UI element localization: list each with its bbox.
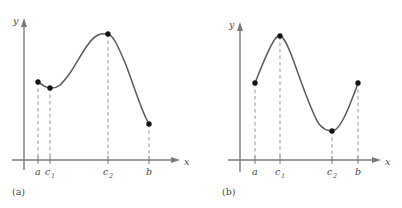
- tick-label-b-3: b: [355, 166, 361, 177]
- tick-sub-b-2: 2: [332, 172, 337, 180]
- curve-a: [38, 34, 149, 124]
- point-b-c1: [277, 33, 282, 38]
- marked-points-a: [35, 31, 151, 126]
- panel-caption-b: (b): [222, 186, 236, 197]
- y-axis-label-b: y: [228, 19, 235, 30]
- panel-b: y x: [201, 0, 402, 208]
- y-axis-arrow-a: [21, 18, 27, 27]
- point-a-c2: [105, 31, 110, 36]
- x-axis-arrow-b: [372, 157, 381, 163]
- tick-label-a-3: b: [146, 166, 152, 177]
- panel-a: y x: [0, 0, 201, 208]
- point-a-b: [146, 121, 151, 126]
- point-b-c2: [329, 128, 334, 133]
- panel-b-plot: y x: [201, 0, 402, 208]
- panel-a-plot: y x: [0, 0, 201, 208]
- point-a-c1: [47, 85, 52, 90]
- panel-caption-a: (a): [12, 186, 25, 197]
- tick-sub-a-2: 2: [108, 172, 113, 180]
- figure-container: y x: [0, 0, 402, 208]
- y-axis-arrow-b: [237, 22, 243, 31]
- tick-sub-b-1: 1: [281, 172, 285, 180]
- drop-lines-a: [38, 34, 149, 158]
- tick-label-b-0: a: [252, 166, 258, 177]
- tick-sub-a-1: 1: [51, 172, 55, 180]
- x-axis-label-a: x: [184, 156, 190, 167]
- x-axis-arrow-a: [171, 157, 180, 163]
- point-b-b: [355, 80, 360, 85]
- y-axis-b: [237, 22, 243, 172]
- x-axis-label-b: x: [385, 156, 391, 167]
- y-axis-a: [21, 18, 27, 170]
- point-b-a: [252, 80, 257, 85]
- curve-b: [255, 36, 358, 131]
- y-axis-label-a: y: [12, 15, 19, 26]
- marked-points-b: [252, 33, 360, 133]
- tick-label-a-0: a: [35, 166, 41, 177]
- point-a-a: [35, 79, 40, 84]
- x-axis-a: [12, 157, 180, 163]
